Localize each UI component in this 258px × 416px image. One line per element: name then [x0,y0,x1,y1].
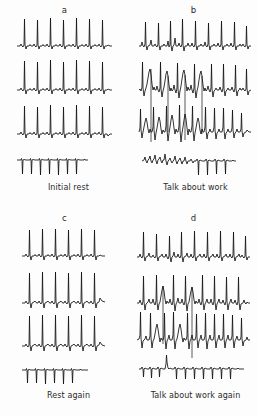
panel-d-ecg-strip-1 [137,231,250,262]
panel-c-caption: Rest again [0,391,133,400]
panel-b-pulse-channel [142,154,236,175]
panel-a-svg [0,14,129,179]
panel-d-traces [129,222,258,387]
panel-c-traces [0,222,129,387]
ecg-figure: a Initial rest b [0,0,258,416]
panel-a-ecg-strip-2 [17,60,112,94]
panel-c-ecg-strip-2 [22,272,105,308]
panel-d: d Talk about work again [129,208,258,416]
panel-d-pulse-channel [139,355,244,379]
panel-b-ecg-strip-1 [139,19,251,51]
panel-c-ecg-strip-1 [22,229,105,260]
panel-c-svg [0,222,129,387]
panel-d-caption: Talk about work again [129,391,258,400]
panel-b-traces [129,14,258,179]
panel-b-caption: Talk about work [129,183,258,192]
panel-b-svg [129,14,258,179]
panel-b-ecg-strip-2 [139,62,251,98]
panel-a-ecg-strip-1 [17,18,112,49]
panel-a: a Initial rest [0,0,129,208]
panel-d-ecg-strip-2 [137,275,250,311]
panel-a-caption: Initial rest [0,183,133,192]
panel-a-traces [0,14,129,179]
panel-c-ecg-strip-3 [22,315,105,351]
panel-b: b Talk about work [129,0,258,208]
panel-d-ecg-strip-3 [137,312,250,349]
panel-d-svg [129,222,258,387]
panel-a-pulse-channel [17,159,88,176]
panel-c-pulse-channel [22,369,88,385]
panel-a-ecg-strip-3 [17,105,112,138]
panel-c: c Rest again [0,208,129,416]
panel-b-ecg-strip-3 [139,105,251,142]
